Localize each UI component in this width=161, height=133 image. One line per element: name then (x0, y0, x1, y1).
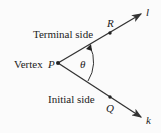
ray-k-label: k (146, 114, 152, 126)
angle-figure: Terminal side Initial side Vertex P R Q … (0, 0, 161, 133)
point-q-label: Q (106, 102, 114, 114)
point-r-label: R (106, 17, 114, 29)
vertex-label: Vertex (14, 58, 43, 70)
initial-side-label: Initial side (48, 93, 95, 105)
terminal-side-label: Terminal side (33, 28, 93, 40)
ray-l-label: l (146, 6, 149, 18)
point-r-dot (108, 31, 111, 34)
angle-diagram: Terminal side Initial side Vertex P R Q … (0, 0, 161, 133)
vertex-dot (56, 61, 60, 65)
vertex-point-label: P (47, 58, 55, 70)
angle-arc (88, 46, 94, 81)
theta-label: θ (80, 58, 86, 70)
point-q-dot (108, 95, 111, 98)
initial-ray (58, 63, 141, 117)
